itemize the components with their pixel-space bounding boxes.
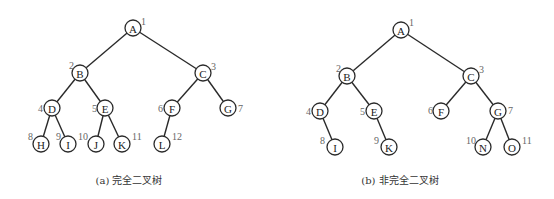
node-index-label: 1	[141, 16, 146, 27]
tree-node-a-F: F6	[158, 100, 180, 116]
node-label: O	[508, 142, 516, 154]
node-index-label: 3	[479, 64, 484, 75]
node-index-label: 11	[132, 131, 142, 142]
tree-node-a-D: D4	[38, 100, 60, 116]
node-label: A	[129, 23, 137, 35]
node-index-label: 2	[69, 60, 74, 71]
node-label: F	[438, 106, 444, 118]
node-label: G	[494, 106, 502, 118]
node-index-label: 8	[28, 131, 33, 142]
node-index-label: 11	[522, 135, 532, 146]
tree-node-a-E: E5	[92, 100, 113, 116]
tree-node-a-H: H8	[28, 131, 49, 152]
node-index-label: 12	[172, 131, 182, 142]
tree-node-a-B: B2	[69, 60, 88, 81]
tree-node-a-C: C3	[195, 61, 216, 81]
node-label: L	[159, 139, 166, 151]
node-index-label: 7	[508, 105, 513, 116]
node-label: F	[169, 103, 175, 115]
tree-node-b-G: G7	[490, 103, 513, 119]
tree-node-a-L: L12	[154, 131, 182, 152]
node-index-label: 3	[211, 61, 216, 72]
node-label: N	[479, 142, 487, 154]
node-index-label: 9	[374, 135, 379, 146]
tree-node-b-D: D4	[306, 103, 328, 119]
tree-node-a-A: A1	[125, 16, 146, 36]
node-label: B	[343, 71, 350, 83]
node-index-label: 2	[336, 63, 341, 74]
node-label: A	[397, 25, 405, 37]
node-label: C	[467, 71, 474, 83]
node-label: H	[37, 139, 45, 151]
node-index-label: 5	[360, 106, 365, 117]
tree-node-b-F: F6	[428, 103, 449, 119]
node-index-label: 6	[158, 103, 163, 114]
tree-edge-a-A-B	[80, 28, 133, 73]
tree-node-b-A: A1	[393, 17, 414, 38]
tree-node-a-G: G7	[220, 100, 243, 116]
node-index-label: 4	[38, 103, 43, 114]
node-index-label: 9	[56, 131, 61, 142]
tree-edge-b-A-C	[401, 30, 471, 76]
node-label: E	[371, 106, 378, 118]
node-label: B	[76, 68, 83, 80]
node-label: D	[316, 106, 324, 118]
caption-complete-binary-tree: (a) 完全二叉树	[96, 172, 163, 187]
node-label: C	[199, 68, 206, 80]
tree-node-b-B: B2	[336, 63, 355, 84]
binary-tree-diagrams: A1B2C3D4E5F6G7H8I9J10K11L12A1B2C3D4E5F6G…	[0, 0, 554, 199]
node-label: G	[224, 103, 232, 115]
edges-layer	[41, 28, 512, 147]
nodes-layer: A1B2C3D4E5F6G7H8I9J10K11L12A1B2C3D4E5F6G…	[28, 16, 532, 155]
node-index-label: 6	[428, 105, 433, 116]
tree-node-b-C: C3	[463, 64, 484, 84]
node-label: I	[333, 142, 337, 154]
tree-edge-a-A-C	[133, 28, 203, 73]
node-index-label: 10	[466, 135, 476, 146]
node-index-label: 5	[92, 103, 97, 114]
tree-node-b-E: E5	[360, 103, 382, 119]
node-index-label: 1	[409, 17, 414, 28]
tree-node-a-I: I9	[56, 131, 76, 152]
node-label: K	[118, 139, 126, 151]
node-index-label: 8	[320, 135, 325, 146]
tree-node-a-J: J10	[78, 131, 104, 152]
node-label: K	[385, 142, 393, 154]
tree-edge-b-A-B	[347, 30, 401, 76]
node-index-label: 10	[78, 131, 88, 142]
node-label: E	[102, 103, 109, 115]
node-label: I	[66, 139, 70, 151]
tree-node-a-K: K11	[114, 131, 142, 152]
node-index-label: 4	[306, 106, 311, 117]
node-label: J	[94, 139, 99, 151]
caption-incomplete-binary-tree: (b) 非完全二叉树	[361, 172, 438, 187]
node-label: D	[48, 103, 56, 115]
node-index-label: 7	[238, 103, 243, 114]
